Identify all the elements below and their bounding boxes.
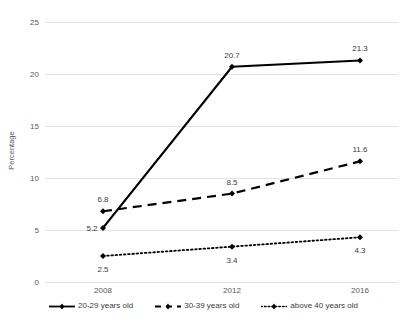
legend-swatch-dashed-icon [155,302,181,311]
legend-swatch-solid-icon [49,302,75,311]
x-tick-2008: 2008 [73,285,133,296]
legend-label-above-40: above 40 years old [290,301,358,311]
line-chart: Percentage 25 20 15 10 5 0 5.220.721.36.… [0,0,407,324]
value-label: 3.4 [226,255,237,264]
y-tick-10: 10 [15,174,39,183]
value-label: 6.8 [97,195,108,204]
y-tick-15: 15 [15,122,39,131]
legend-swatch-dotted-icon [261,302,287,311]
legend-item-30-39[interactable]: 30-39 years old [155,301,239,311]
value-label: 4.3 [354,246,365,255]
legend-item-above-40[interactable]: above 40 years old [261,301,358,311]
y-axis-tick-labels: 25 20 15 10 5 0 [11,22,39,282]
y-tick-25: 25 [15,18,39,27]
data-point-marker [229,244,235,250]
data-point-marker [100,253,106,259]
y-tick-5: 5 [15,226,39,235]
series-line-0 [103,60,360,227]
plot-area: 5.220.721.36.88.511.62.53.44.3 [45,22,398,282]
value-label: 2.5 [97,265,108,274]
series-line-1 [103,161,360,211]
value-label: 11.6 [353,145,368,154]
legend-label-20-29: 20-29 years old [78,301,133,311]
data-point-marker [357,158,363,164]
data-point-marker [357,57,363,63]
legend-label-30-39: 30-39 years old [184,301,239,311]
chart-title [0,0,407,2]
x-axis-tick-labels: 2008 2012 2016 [45,285,398,297]
legend-item-20-29[interactable]: 20-29 years old [49,301,133,311]
value-label: 21.3 [352,44,368,53]
x-tick-2016: 2016 [330,285,390,296]
value-label: 5.2 [86,223,97,232]
gridline-0 [45,282,398,283]
value-label: 8.5 [226,177,237,186]
data-point-marker [357,234,363,240]
y-tick-20: 20 [15,70,39,79]
chart-legend: 20-29 years old 30-39 years old above 40… [0,301,407,311]
data-point-marker [100,208,106,214]
value-label: 20.7 [224,50,240,59]
y-tick-0: 0 [15,278,39,287]
x-tick-2012: 2012 [202,285,262,296]
data-point-marker [229,191,235,197]
series-lines [45,22,398,282]
